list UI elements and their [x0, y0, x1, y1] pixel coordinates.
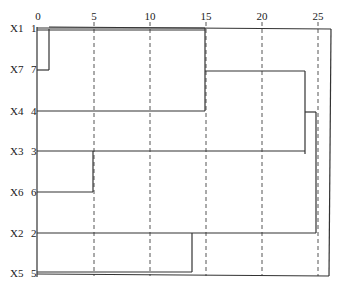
leaf-label-x1: X1: [10, 22, 23, 34]
x-tick-0: 0: [35, 10, 41, 22]
leaf-id-1: 1: [31, 22, 37, 34]
x-tick-5: 5: [91, 10, 97, 22]
leaf-id-7: 7: [31, 63, 37, 75]
x-tick-10: 10: [145, 10, 157, 22]
leaf-id-4: 4: [31, 105, 37, 117]
leaf-id-5: 5: [31, 267, 37, 279]
x-tick-20: 20: [257, 10, 269, 22]
leaf-label-x4: X4: [10, 105, 24, 117]
dendrogram: 0 5 10 15 20 25 X1 1 X7 7 X4 4 X3 3 X6 6…: [0, 0, 339, 286]
x-tick-25: 25: [313, 10, 325, 22]
leaf-label-x2: X2: [10, 227, 23, 239]
leaf-label-x6: X6: [10, 186, 24, 198]
leaf-id-3: 3: [31, 145, 37, 157]
grid-lines: [94, 22, 318, 276]
x-tick-15: 15: [201, 10, 213, 22]
dendrogram-links: [37, 27, 331, 277]
leaf-label-x3: X3: [10, 145, 24, 157]
leaf-id-6: 6: [31, 186, 37, 198]
leaf-label-x7: X7: [10, 63, 24, 75]
leaf-label-x5: X5: [10, 267, 24, 279]
leaf-id-2: 2: [31, 227, 37, 239]
